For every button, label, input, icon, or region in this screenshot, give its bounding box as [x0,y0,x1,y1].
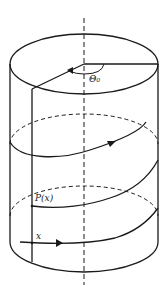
start-x-label: x [36,231,41,241]
point-p-marker [31,205,34,208]
radius-rotated [32,64,84,89]
cylinder-helix-diagram: Θ₀ P(x) x [0,0,166,295]
helix-arrowhead-lower-icon [56,239,63,247]
angle-arrowhead-icon [67,67,73,74]
point-p-label: P(x) [34,193,54,203]
helix-segment-upper [10,122,146,157]
angle-label: Θ₀ [89,74,100,84]
point-x-marker [31,242,34,245]
